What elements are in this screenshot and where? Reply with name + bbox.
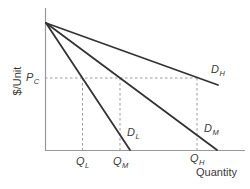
quantity-label-qm-sub: M: [122, 161, 128, 170]
demand-curve-dl: [46, 23, 130, 150]
curve-label-dl-sub: L: [135, 132, 139, 141]
quantity-label-qm-main: Q: [113, 155, 122, 167]
curve-label-dm-sub: M: [212, 128, 218, 137]
curve-label-dl: DL: [127, 126, 139, 140]
quantity-label-qh-main: Q: [190, 152, 199, 164]
price-pc-label: PC: [26, 71, 39, 85]
price-pc-label-main: P: [26, 71, 33, 83]
price-pc-label-sub: C: [34, 77, 39, 86]
demand-elasticity-figure: $/Unit Quantity PC DH DM DL QL QM QH: [0, 0, 250, 189]
curve-label-dl-main: D: [127, 126, 135, 138]
curve-label-dm: DM: [204, 122, 218, 136]
curve-label-dh-sub: H: [219, 69, 224, 78]
quantity-label-qh: QH: [190, 152, 204, 166]
demand-curve-dh: [46, 23, 218, 85]
curve-label-dh: DH: [211, 63, 224, 77]
curve-label-dm-main: D: [204, 122, 212, 134]
x-axis-label: Quantity: [196, 166, 237, 178]
quantity-label-ql-sub: L: [85, 161, 89, 170]
curve-label-dh-main: D: [211, 63, 219, 75]
y-axis-label: $/Unit: [11, 67, 23, 96]
quantity-label-ql-main: Q: [76, 155, 85, 167]
quantity-label-qh-sub: H: [199, 158, 204, 167]
quantity-label-ql: QL: [76, 155, 89, 169]
quantity-label-qm: QM: [113, 155, 128, 169]
